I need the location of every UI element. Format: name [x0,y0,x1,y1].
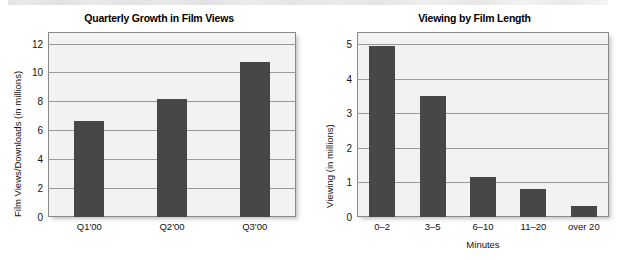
y-tick-label: 10 [32,67,43,78]
bar [470,177,496,217]
y-tick-label: 4 [346,73,352,84]
charts-container: Quarterly Growth in Film Views Film View… [0,8,631,260]
bar [157,99,187,217]
y-tick-label: 12 [32,38,43,49]
bar [369,46,395,217]
bar-slot [131,32,214,217]
plot-wrap: 012345 0–23–56–1011–20over 20 [357,32,609,217]
bars-layer [48,32,296,217]
x-axis-ticks: Q1'00Q2'00Q3'00 [48,221,296,232]
bar [240,62,270,217]
y-tick-label: 0 [37,212,43,223]
y-tick-label: 2 [37,183,43,194]
x-tick-label: Q2'00 [131,221,214,232]
chart-panel-quarterly-growth: Quarterly Growth in Film Views Film View… [0,8,318,260]
y-tick-label: 2 [346,142,352,153]
x-axis-ticks: 0–23–56–1011–20over 20 [357,221,609,232]
y-tick-label: 5 [346,39,352,50]
plot-wrap: 024681012 Q1'00Q2'00Q3'00 [48,32,296,217]
scanned-text-fragment: registration that on site removed arrang… [8,0,608,5]
bar [571,206,597,217]
y-tick-label: 4 [37,154,43,165]
bar-slot [458,32,508,217]
x-tick-label: 11–20 [508,221,558,232]
x-tick-label: 0–2 [357,221,407,232]
x-tick-label: over 20 [559,221,609,232]
y-tick-label: 6 [37,125,43,136]
chart-panel-viewing-by-film-length: Viewing by Film Length Viewing (in milli… [318,8,631,260]
x-axis-label: Minutes [357,239,609,250]
bar-slot [559,32,609,217]
y-tick-label: 1 [346,177,352,188]
x-tick-label: Q1'00 [48,221,131,232]
bar [74,121,104,217]
chart-title: Quarterly Growth in Film Views [0,12,318,24]
x-tick-label: Q3'00 [213,221,296,232]
x-tick-label: 3–5 [407,221,457,232]
y-tick-label: 3 [346,108,352,119]
y-axis-label: Viewing (in millions) [324,124,335,208]
bar [520,189,546,217]
bar-slot [508,32,558,217]
chart-title: Viewing by Film Length [318,12,631,24]
y-tick-label: 8 [37,96,43,107]
bars-layer [357,32,609,217]
bar-slot [357,32,407,217]
y-tick-label: 0 [346,212,352,223]
bar-slot [48,32,131,217]
bar-slot [407,32,457,217]
bar [420,96,446,217]
x-tick-label: 6–10 [458,221,508,232]
y-axis-label: Film Views/Downloads (in millions) [12,71,23,217]
bar-slot [213,32,296,217]
